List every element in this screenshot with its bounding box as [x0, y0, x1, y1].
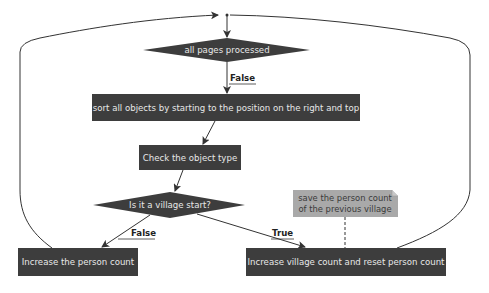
process-sort-objects[interactable]: sort all objects by starting to the posi… — [92, 94, 360, 121]
edge-label-village-true: True — [272, 228, 293, 238]
process-increase-village-count[interactable]: Increase village count and reset person … — [246, 248, 446, 276]
process-increase-village-count-label: Increase village count and reset person … — [248, 257, 446, 267]
decision-village-start-label: Is it a village start? — [129, 200, 211, 210]
process-check-object-type-label: Check the object type — [143, 153, 237, 163]
decision-all-pages-processed-label: all pages processed — [184, 45, 269, 55]
process-increase-person-count-label: Increase the person count — [22, 257, 135, 267]
edge-check-to-village — [175, 170, 183, 191]
note-save-person-count[interactable]: save the person count of the previous vi… — [293, 190, 398, 217]
note-line-1: save the person count — [298, 193, 392, 203]
edge-label-pages-false: False — [230, 73, 255, 83]
decision-village-start[interactable]: Is it a village start? — [93, 192, 245, 218]
process-check-object-type[interactable]: Check the object type — [139, 145, 241, 170]
flowchart-canvas: all pages processed False sort all objec… — [0, 0, 489, 293]
decision-all-pages-processed[interactable]: all pages processed — [143, 38, 310, 62]
edge-label-village-false: False — [131, 228, 156, 238]
process-increase-person-count[interactable]: Increase the person count — [18, 248, 138, 276]
note-line-2: of the previous village — [298, 204, 391, 214]
process-sort-objects-label: sort all objects by starting to the posi… — [93, 103, 359, 113]
edge-sort-to-check — [203, 121, 215, 144]
